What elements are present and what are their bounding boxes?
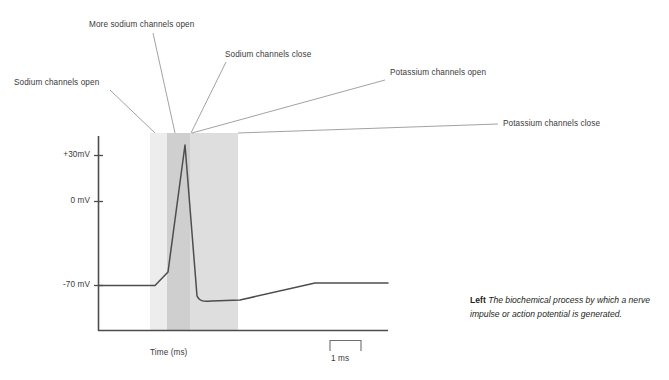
annotation-sodium-channels-open: Sodium channels open: [14, 78, 99, 88]
caption-body: The biochemical process by which a nerve…: [470, 295, 650, 319]
leader-sodium-close: [191, 62, 226, 133]
action-potential-graphic: [0, 0, 669, 380]
leader-potassium-close: [238, 124, 498, 133]
action-potential-curve: [99, 145, 388, 301]
band-depolarization-onset: [150, 133, 167, 330]
leader-sodium-open: [110, 90, 155, 133]
y-tick-label-30mv: +30mV: [38, 150, 90, 159]
x-axis-label: Time (ms): [150, 348, 187, 357]
y-tick-label-0mv: 0 mV: [38, 196, 90, 205]
scalebar-label: 1 ms: [331, 354, 349, 363]
y-tick-label-minus70mv: -70 mV: [38, 280, 90, 289]
leader-potassium-open: [192, 80, 385, 133]
annotation-more-sodium-channels-open: More sodium channels open: [89, 20, 194, 30]
annotation-potassium-channels-open: Potassium channels open: [390, 68, 486, 78]
caption-lead: Left: [470, 295, 486, 305]
scalebar-bracket: [330, 341, 361, 352]
leader-more-sodium-open: [153, 33, 175, 133]
figure-canvas: Sodium channels open More sodium channel…: [0, 0, 669, 380]
figure-caption: Left The biochemical process by which a …: [470, 294, 660, 321]
annotation-sodium-channels-close: Sodium channels close: [225, 50, 311, 60]
annotation-potassium-channels-close: Potassium channels close: [503, 119, 600, 129]
